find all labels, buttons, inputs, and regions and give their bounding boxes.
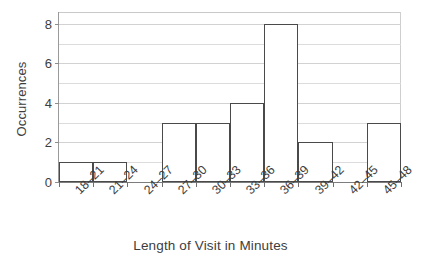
x-tick-label: 39–42 (313, 188, 322, 197)
gridline (59, 44, 401, 45)
gridline (59, 24, 401, 25)
y-tick-label: 8 (30, 18, 52, 31)
y-tick-label: 2 (30, 136, 52, 149)
x-tick-label: 18–21 (73, 188, 82, 197)
histogram-chart: Occurrences 02468 18–2121–2424–2727–3030… (0, 0, 421, 267)
y-axis-title: Occurrences (12, 4, 32, 194)
x-axis-title: Length of Visit in Minutes (0, 238, 421, 253)
x-tick-label: 24–27 (142, 188, 151, 197)
x-tick-label: 42–45 (347, 188, 356, 197)
y-tick-label: 4 (30, 97, 52, 110)
y-tick-mark (55, 24, 59, 25)
y-tick-mark (55, 63, 59, 64)
x-axis-tick-labels: 18–2121–2424–2727–3030–3333–3636–3939–42… (58, 182, 401, 232)
x-tick-label: 36–39 (278, 188, 287, 197)
x-tick-label: 21–24 (107, 188, 116, 197)
y-axis-tick-labels: 02468 (30, 0, 52, 267)
x-tick-label: 33–36 (244, 188, 253, 197)
gridline (59, 63, 401, 64)
y-tick-mark (55, 142, 59, 143)
x-tick-label: 30–33 (210, 188, 219, 197)
x-tick-label: 45–48 (381, 188, 390, 197)
y-tick-label: 6 (30, 57, 52, 70)
y-tick-mark (55, 103, 59, 104)
plot-area (58, 12, 401, 183)
x-tick-label: 27–30 (176, 188, 185, 197)
y-tick-label: 0 (30, 176, 52, 189)
histogram-bar (264, 24, 298, 182)
gridline (59, 83, 401, 84)
